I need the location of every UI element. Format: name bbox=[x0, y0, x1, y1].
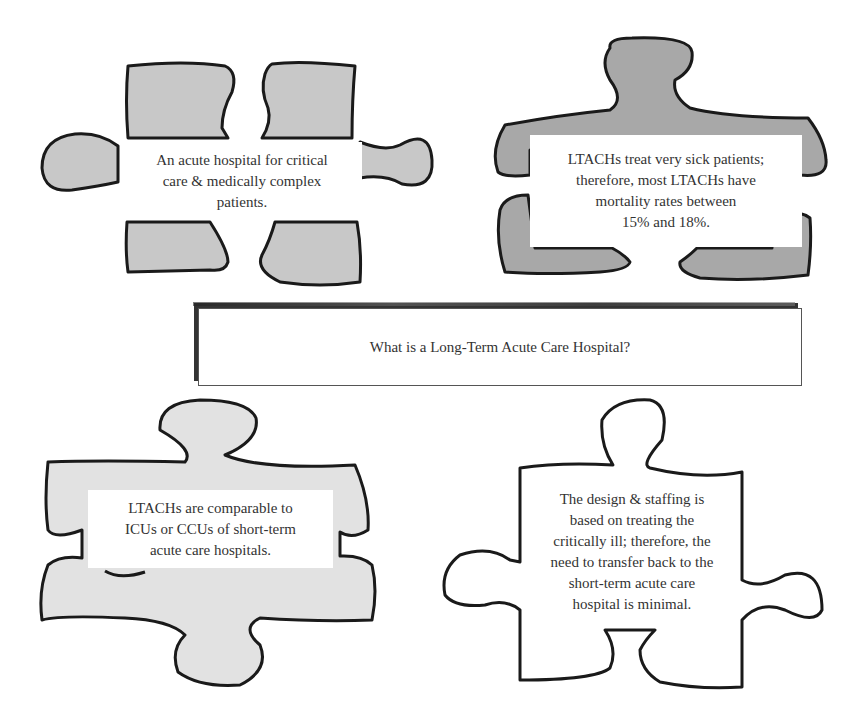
text-line: care & medically complex bbox=[156, 171, 328, 192]
text-line: LTACHs treat very sick patients; bbox=[568, 149, 765, 170]
text-line: acute care hospitals. bbox=[125, 540, 296, 561]
central-question-box: What is a Long-Term Acute Care Hospital? bbox=[198, 308, 802, 386]
piece-text-bottom-left: LTACHs are comparable to ICUs or CCUs of… bbox=[88, 490, 333, 568]
text-line: An acute hospital for critical bbox=[156, 150, 328, 171]
text-line: 15% and 18%. bbox=[568, 212, 765, 233]
text-line: ICUs or CCUs of short-term bbox=[125, 519, 296, 540]
piece-text-bottom-right: The design & staffing is based on treati… bbox=[522, 482, 742, 622]
text-line: short-term acute care bbox=[551, 573, 714, 594]
piece-text-top-right: LTACHs treat very sick patients; therefo… bbox=[530, 135, 802, 247]
text-line: patients. bbox=[156, 192, 328, 213]
text-line: therefore, most LTACHs have bbox=[568, 170, 765, 191]
text-line: need to transfer back to the bbox=[551, 552, 714, 573]
piece-text-top-left: An acute hospital for critical care & me… bbox=[122, 142, 362, 220]
central-question-text: What is a Long-Term Acute Care Hospital? bbox=[370, 339, 631, 356]
text-line: LTACHs are comparable to bbox=[125, 498, 296, 519]
text-line: critically ill; therefore, the bbox=[551, 531, 714, 552]
text-line: mortality rates between bbox=[568, 191, 765, 212]
text-line: The design & staffing is bbox=[551, 489, 714, 510]
text-line: based on treating the bbox=[551, 510, 714, 531]
text-line: hospital is minimal. bbox=[551, 594, 714, 615]
